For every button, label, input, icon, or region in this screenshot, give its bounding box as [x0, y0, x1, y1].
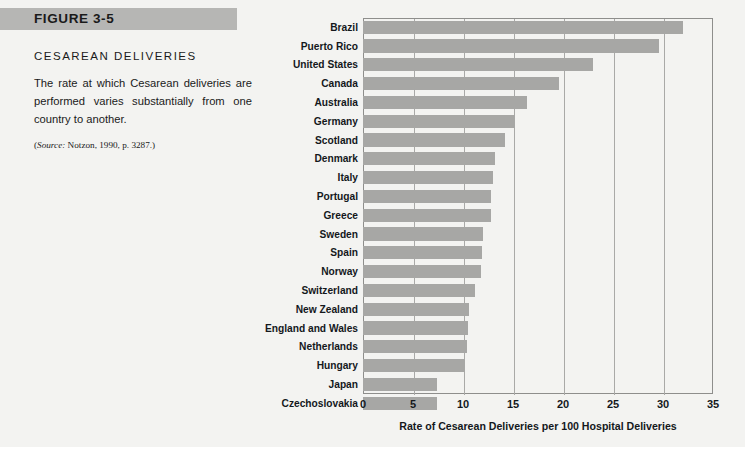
page-edge-right	[745, 0, 751, 452]
source-citation: Notzon, 1990, p. 3287.	[65, 140, 152, 150]
bar-row	[363, 300, 713, 319]
figure-description: The rate at which Cesarean deliveries ar…	[34, 74, 252, 128]
category-label: Canada	[321, 78, 358, 89]
bar-brazil	[363, 21, 683, 34]
bar-portugal	[363, 190, 491, 203]
category-label-row: Hungary	[286, 356, 358, 375]
category-label-row: Netherlands	[286, 338, 358, 357]
category-axis-labels: BrazilPuerto RicoUnited StatesCanadaAust…	[286, 18, 358, 394]
page-edge-bottom	[0, 447, 751, 452]
category-label-row: Switzerland	[286, 281, 358, 300]
value-axis-tick-labels: 05101520253035	[286, 398, 751, 414]
x-tick-label: 20	[557, 398, 569, 410]
figure-number-label: FIGURE 3-5	[34, 11, 114, 26]
x-tick-label: 5	[410, 398, 416, 410]
x-tick-label: 30	[657, 398, 669, 410]
bar-spain	[363, 246, 482, 259]
bar-row	[363, 356, 713, 375]
category-label-row: Portugal	[286, 187, 358, 206]
category-label: Sweden	[320, 229, 359, 240]
category-label-row: New Zealand	[286, 300, 358, 319]
bar-row	[363, 244, 713, 263]
category-label: Germany	[314, 116, 358, 127]
category-label-row: Puerto Rico	[286, 37, 358, 56]
category-label-row: Scotland	[286, 131, 358, 150]
bar-italy	[363, 171, 493, 184]
bar-series	[363, 18, 713, 394]
category-label: Greece	[323, 210, 358, 221]
category-label-row: Greece	[286, 206, 358, 225]
bar-row	[363, 18, 713, 37]
category-label-row: Brazil	[286, 18, 358, 37]
figure-3-5-panel: FIGURE 3-5 CESAREAN DELIVERIES The rate …	[0, 0, 751, 452]
category-label-row: Canada	[286, 74, 358, 93]
bar-england-and-wales	[363, 321, 468, 334]
category-label-row: Norway	[286, 262, 358, 281]
category-label: Norway	[321, 266, 358, 277]
bar-sweden	[363, 227, 483, 240]
category-label-row: Denmark	[286, 150, 358, 169]
bar-row	[363, 281, 713, 300]
bar-row	[363, 375, 713, 394]
category-label: Puerto Rico	[301, 41, 358, 52]
category-label-row: Sweden	[286, 225, 358, 244]
bar-hungary	[363, 359, 465, 372]
bar-row	[363, 150, 713, 169]
x-tick-label: 0	[360, 398, 366, 410]
category-label: New Zealand	[296, 304, 358, 315]
category-label-row: Japan	[286, 375, 358, 394]
bar-row	[363, 206, 713, 225]
bar-scotland	[363, 133, 505, 146]
caption-column: FIGURE 3-5 CESAREAN DELIVERIES The rate …	[0, 0, 286, 452]
x-tick-label: 35	[707, 398, 719, 410]
figure-source: (Source: Notzon, 1990, p. 3287.)	[34, 140, 264, 150]
value-axis-title: Rate of Cesarean Deliveries per 100 Hosp…	[363, 420, 713, 432]
category-label: Italy	[338, 172, 358, 183]
category-label: Australia	[314, 97, 358, 108]
cesarean-delivery-bar-chart: BrazilPuerto RicoUnited StatesCanadaAust…	[286, 0, 751, 452]
category-label-row: Australia	[286, 93, 358, 112]
bar-new-zealand	[363, 303, 469, 316]
bar-row	[363, 131, 713, 150]
bar-united-states	[363, 58, 593, 71]
bar-row	[363, 225, 713, 244]
category-label: Japan	[329, 379, 358, 390]
category-label: Hungary	[317, 360, 358, 371]
bar-row	[363, 168, 713, 187]
x-tick-label: 15	[507, 398, 519, 410]
x-tick-label: 10	[457, 398, 469, 410]
bar-row	[363, 93, 713, 112]
figure-title: CESAREAN DELIVERIES	[34, 50, 197, 62]
category-label-row: England and Wales	[286, 319, 358, 338]
category-label-row: United States	[286, 56, 358, 75]
category-label: Denmark	[314, 153, 358, 164]
bar-australia	[363, 96, 527, 109]
bar-row	[363, 338, 713, 357]
source-label: Source:	[37, 140, 65, 150]
bar-canada	[363, 77, 559, 90]
bar-switzerland	[363, 284, 475, 297]
bar-denmark	[363, 152, 495, 165]
bar-row	[363, 74, 713, 93]
bar-row	[363, 262, 713, 281]
source-close-paren: )	[152, 140, 155, 150]
category-label-row: Spain	[286, 244, 358, 263]
bar-row	[363, 37, 713, 56]
category-label-row: Italy	[286, 168, 358, 187]
category-label-row: Germany	[286, 112, 358, 131]
bar-netherlands	[363, 340, 467, 353]
bar-germany	[363, 115, 515, 128]
bar-row	[363, 319, 713, 338]
bar-norway	[363, 265, 481, 278]
bar-row	[363, 112, 713, 131]
bar-japan	[363, 378, 437, 391]
bar-row	[363, 187, 713, 206]
category-label: Portugal	[317, 191, 358, 202]
category-label: England and Wales	[265, 323, 358, 334]
bar-puerto-rico	[363, 39, 659, 52]
category-label: Switzerland	[301, 285, 358, 296]
category-label: Spain	[330, 247, 358, 258]
category-label: Brazil	[330, 22, 358, 33]
category-label: Scotland	[315, 135, 358, 146]
bar-row	[363, 56, 713, 75]
